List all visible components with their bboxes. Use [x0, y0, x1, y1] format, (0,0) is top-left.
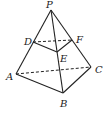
label-F: F — [75, 34, 84, 45]
label-D: D — [23, 36, 32, 47]
label-B: B — [59, 98, 67, 109]
edge-AC — [16, 67, 91, 74]
label-C: C — [95, 64, 103, 75]
edge-EF — [57, 40, 72, 52]
edge-DF — [33, 40, 72, 42]
edge-PC — [51, 10, 91, 67]
label-P: P — [45, 0, 53, 10]
label-E: E — [59, 53, 68, 64]
edge-BC — [63, 67, 91, 93]
edge-AB — [16, 74, 63, 93]
pyramid-diagram: P D F E A C B — [0, 0, 109, 114]
edge-DE — [33, 42, 57, 52]
label-A: A — [5, 71, 13, 82]
